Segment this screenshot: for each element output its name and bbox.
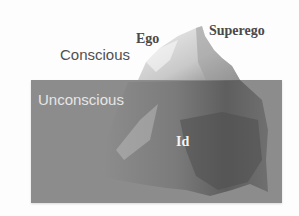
label-ego: Ego — [136, 32, 159, 46]
label-unconscious: Unconscious — [38, 92, 124, 107]
label-conscious: Conscious — [60, 47, 130, 62]
label-id: Id — [176, 135, 189, 149]
iceberg-diagram: Conscious Unconscious Ego Superego Id — [0, 0, 299, 216]
label-superego: Superego — [209, 24, 265, 38]
